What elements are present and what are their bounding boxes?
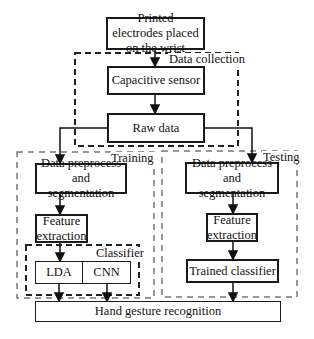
capacitive-sensor-node: Capacitive sensor <box>107 66 205 95</box>
test-feature-node: Feature extraction <box>206 213 258 242</box>
cnn-node: CNN <box>82 261 131 284</box>
classifier-label: Classifier <box>95 247 145 260</box>
hand-gesture-node: Hand gesture recognition <box>35 301 281 322</box>
raw-data-node: Raw data <box>107 113 205 143</box>
electrodes-node: Printed electrodes placed on the wrist <box>106 17 205 50</box>
lda-node: LDA <box>35 261 83 284</box>
trained-classifier-node: Trained classifier <box>186 259 279 283</box>
train-feature-node: Feature extraction <box>35 214 88 243</box>
test-preprocess-node: Data preprocess and segmentation <box>185 162 279 194</box>
flowchart: Data collection Training Testing Classif… <box>0 0 314 339</box>
train-preprocess-node: Data preprocess and segmentation <box>35 163 127 194</box>
